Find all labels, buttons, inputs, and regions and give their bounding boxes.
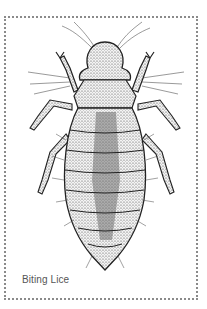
biting-louse-illustration [0,0,207,309]
caption-label: Biting Lice [22,274,69,285]
thorax-icon [74,80,136,108]
head-icon [79,42,130,80]
